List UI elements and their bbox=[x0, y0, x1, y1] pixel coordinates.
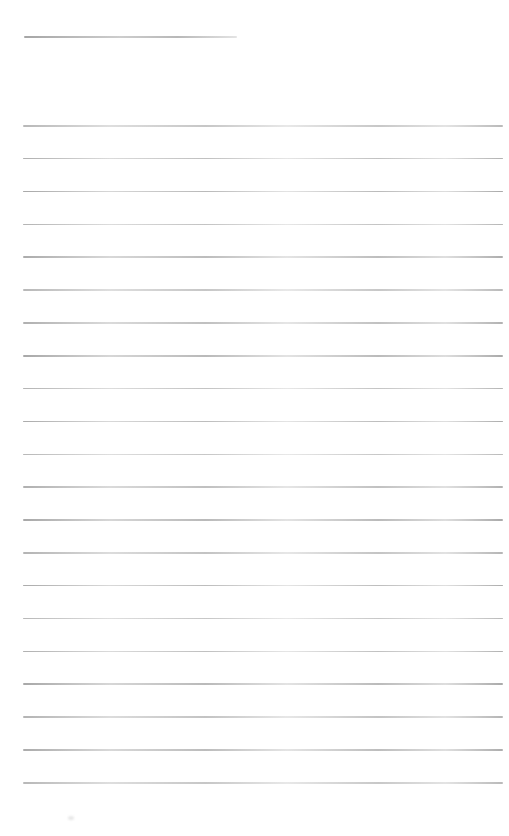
ruled-line bbox=[23, 355, 503, 357]
ruled-line bbox=[23, 585, 503, 587]
ruled-line bbox=[23, 454, 503, 456]
scan-artifact bbox=[68, 816, 74, 820]
ruled-line bbox=[23, 289, 503, 291]
ruled-line bbox=[23, 651, 503, 653]
ruled-line bbox=[23, 322, 503, 324]
ruled-line bbox=[23, 388, 503, 390]
ruled-line bbox=[23, 683, 503, 685]
ruled-line bbox=[23, 224, 503, 226]
ruled-line bbox=[23, 158, 503, 160]
ruled-line bbox=[23, 716, 503, 718]
ruled-line bbox=[23, 782, 503, 784]
ruled-line bbox=[23, 191, 503, 193]
title-underline bbox=[24, 36, 237, 38]
ruled-line bbox=[23, 519, 503, 521]
ruled-line bbox=[23, 125, 503, 127]
ruled-line bbox=[23, 421, 503, 423]
ruled-line bbox=[23, 618, 503, 620]
blank-lined-page bbox=[0, 0, 509, 836]
ruled-line bbox=[23, 256, 503, 258]
ruled-line bbox=[23, 552, 503, 554]
ruled-line bbox=[23, 749, 503, 751]
ruled-line bbox=[23, 486, 503, 488]
